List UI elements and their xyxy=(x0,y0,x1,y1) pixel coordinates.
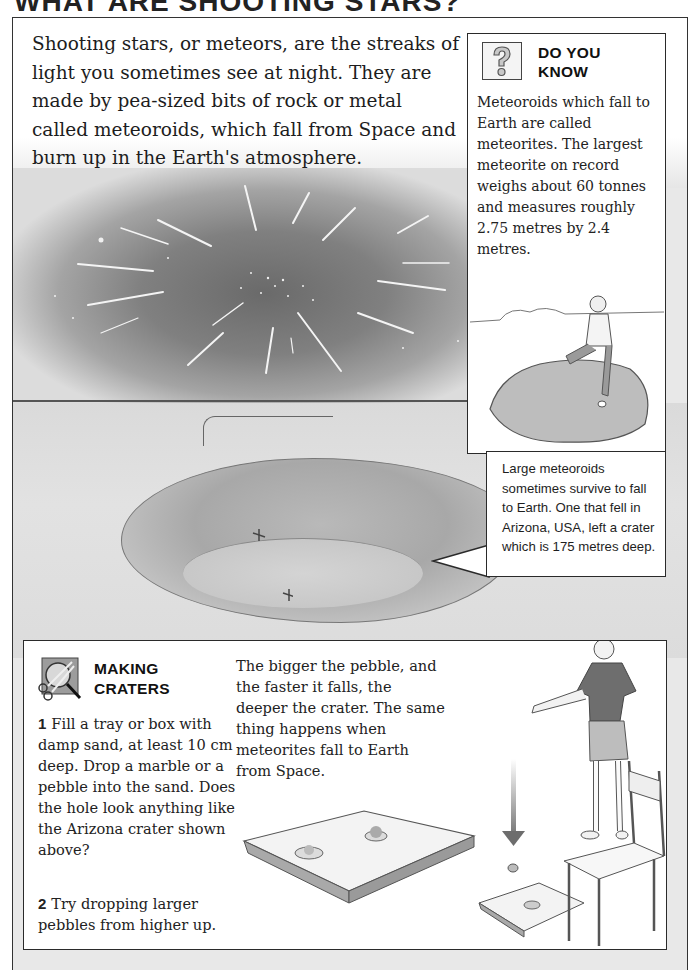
scissors-magnifier-icon xyxy=(38,656,82,702)
step-number: 1 xyxy=(38,715,46,732)
step-2: 2Try dropping larger pebbles from higher… xyxy=(38,893,238,935)
making-craters-box: MAKING CRATERS 1Fill a tray or box with … xyxy=(23,640,667,950)
callout-pointer xyxy=(431,543,491,583)
did-you-know-title: DO YOU KNOW xyxy=(538,43,601,81)
did-you-know-title-line1: DO YOU xyxy=(538,43,601,62)
step-number: 2 xyxy=(38,895,46,912)
meteor-streaks-icon xyxy=(13,168,469,418)
making-craters-title-line2: CRATERS xyxy=(94,679,170,699)
step-text: Try dropping larger pebbles from higher … xyxy=(38,895,216,933)
main-panel: Shooting stars, or meteors, are the stre… xyxy=(12,17,688,970)
did-you-know-title-line2: KNOW xyxy=(538,62,601,81)
intro-paragraph: Shooting stars, or meteors, are the stre… xyxy=(32,30,462,173)
making-craters-title: MAKING CRATERS xyxy=(94,659,170,698)
step-text: Fill a tray or box with damp sand, at le… xyxy=(38,715,235,858)
airplane-icon xyxy=(243,523,293,603)
crater-callout: Large meteoroids sometimes survive to fa… xyxy=(486,451,666,577)
page-title: WHAT ARE SHOOTING STARS? xyxy=(14,0,461,18)
crater-floor xyxy=(183,538,423,608)
question-mark-icon xyxy=(482,42,522,80)
step-1: 1Fill a tray or box with damp sand, at l… xyxy=(38,713,238,860)
horizon-line xyxy=(13,400,469,402)
meteor-shower-illustration xyxy=(13,168,469,418)
boy-on-meteorite-illustration xyxy=(470,284,664,452)
did-you-know-text: Meteoroids which fall to Earth are calle… xyxy=(477,92,667,260)
road-line xyxy=(203,416,333,446)
crater-explanation: The bigger the pebble, and the faster it… xyxy=(236,655,446,781)
did-you-know-box: DO YOU KNOW Meteoroids which fall to Ear… xyxy=(467,33,666,454)
making-craters-title-line1: MAKING xyxy=(94,659,170,679)
